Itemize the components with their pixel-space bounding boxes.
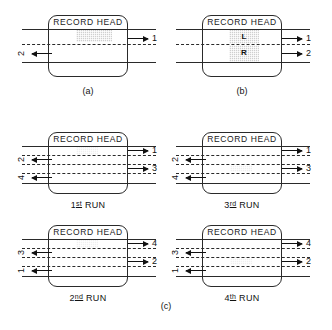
run-4-track-4-arrow bbox=[282, 243, 302, 244]
panel-a-track-divider bbox=[22, 44, 156, 45]
run-1-tape-edge-top bbox=[22, 146, 156, 147]
run-4-suffix: RUN bbox=[239, 293, 259, 303]
run-3-track-2-arrow bbox=[186, 159, 206, 160]
run-2-track-1-arrow bbox=[32, 270, 52, 271]
run-3-caption: 3rd RUN bbox=[202, 200, 282, 210]
run-3-ordinal: rd bbox=[230, 200, 237, 207]
run-1-caption: 1st RUN bbox=[48, 200, 128, 210]
panel-b-track-divider bbox=[176, 44, 310, 45]
run-4-track-4-label: 4 bbox=[306, 239, 311, 248]
run-3-suffix: RUN bbox=[239, 200, 259, 210]
run-3-track-2-label: 2 bbox=[171, 157, 180, 162]
run-2-ordinal: nd bbox=[75, 293, 83, 300]
run-1-track-1-arrow bbox=[128, 150, 148, 151]
run-1-track-4-arrow bbox=[32, 177, 52, 178]
panel-b-caption: (b) bbox=[202, 86, 282, 96]
run-4-record-head-label: RECORD HEAD bbox=[202, 227, 282, 237]
run-3-tape-edge-top bbox=[176, 146, 310, 147]
run-3-divider-3 bbox=[176, 173, 310, 174]
run-2-track-4-label: 4 bbox=[152, 239, 157, 248]
panel-b-tape-edge-bottom bbox=[176, 62, 310, 63]
run-4-track-3-label: 3 bbox=[171, 250, 180, 255]
run-2-track-3-arrow bbox=[32, 252, 52, 253]
panel-b-track-1-arrow bbox=[282, 38, 302, 39]
run-3-record-head-label: RECORD HEAD bbox=[202, 134, 282, 144]
panel-a-record-head-label: RECORD HEAD bbox=[48, 17, 128, 27]
run-1-divider-1 bbox=[22, 155, 156, 156]
panel-b-channel-right-label: R bbox=[229, 49, 259, 57]
panel-a-track-1-label: 1 bbox=[152, 34, 157, 43]
run-2-track-3-label: 3 bbox=[17, 250, 26, 255]
panel-b-channel-left-label: L bbox=[229, 33, 259, 41]
run-1-ordinal: st bbox=[76, 200, 82, 207]
run-1-track-3-arrow bbox=[128, 168, 148, 169]
run-3-track-3-label: 3 bbox=[306, 164, 311, 173]
run-2-track-1-label: 1 bbox=[17, 268, 26, 273]
panel-b-track-2-label: 2 bbox=[306, 49, 311, 58]
run-4-track-3-arrow bbox=[186, 252, 206, 253]
panel-b-track-2-arrow bbox=[282, 53, 302, 54]
panel-b-tape-edge-top bbox=[176, 29, 310, 30]
panel-a-track-2-label: 2 bbox=[17, 51, 26, 56]
run-1-divider-2 bbox=[22, 164, 156, 165]
run-3-track-1-arrow bbox=[282, 150, 302, 151]
run-2-tape-edge-top bbox=[22, 239, 156, 240]
run-4-track-1-arrow bbox=[186, 270, 206, 271]
run-3-divider-2 bbox=[176, 164, 310, 165]
run-4-tape-edge-top bbox=[176, 239, 310, 240]
panel-c-caption: (c) bbox=[136, 301, 196, 311]
run-4-divider-2 bbox=[176, 257, 310, 258]
run-3-track-1-label: 1 bbox=[306, 146, 311, 155]
run-1-track-2-label: 2 bbox=[17, 157, 26, 162]
run-3-track-4-arrow bbox=[186, 177, 206, 178]
run-1-suffix: RUN bbox=[85, 200, 105, 210]
panel-a-track-2-arrow bbox=[32, 53, 52, 54]
run-3-divider-1 bbox=[176, 155, 310, 156]
run-2-track-2-arrow bbox=[128, 261, 148, 262]
run-4-tape-edge-bottom bbox=[176, 276, 310, 277]
panel-a-tape-edge-top bbox=[22, 29, 156, 30]
run-3-track-3-arrow bbox=[282, 168, 302, 169]
run-2-record-head-label: RECORD HEAD bbox=[48, 227, 128, 237]
run-1-record-head-label: RECORD HEAD bbox=[48, 134, 128, 144]
run-1-track-2-arrow bbox=[32, 159, 52, 160]
run-1-track-1-label: 1 bbox=[152, 146, 157, 155]
run-4-caption: 4th RUN bbox=[202, 293, 282, 303]
run-2-divider-3 bbox=[22, 266, 156, 267]
panel-a-track-1-arrow bbox=[128, 38, 148, 39]
run-4-track-1-label: 1 bbox=[171, 268, 180, 273]
run-1-divider-3 bbox=[22, 173, 156, 174]
run-3-track-4-label: 4 bbox=[171, 175, 180, 180]
run-1-track-4-label: 4 bbox=[17, 175, 26, 180]
run-4-divider-1 bbox=[176, 248, 310, 249]
run-2-caption: 2nd RUN bbox=[48, 293, 128, 303]
run-2-suffix: RUN bbox=[86, 293, 106, 303]
run-1-track-3-label: 3 bbox=[152, 164, 157, 173]
run-2-tape-edge-bottom bbox=[22, 276, 156, 277]
run-2-divider-2 bbox=[22, 257, 156, 258]
run-4-divider-3 bbox=[176, 266, 310, 267]
panel-b-record-head-label: RECORD HEAD bbox=[202, 17, 282, 27]
panel-a-caption: (a) bbox=[48, 86, 128, 96]
run-2-track-2-label: 2 bbox=[152, 257, 157, 266]
panel-b-track-1-label: 1 bbox=[306, 34, 311, 43]
run-3-tape-edge-bottom bbox=[176, 183, 310, 184]
run-4-track-2-label: 2 bbox=[306, 257, 311, 266]
run-1-tape-edge-bottom bbox=[22, 183, 156, 184]
panel-a-tape-edge-bottom bbox=[22, 62, 156, 63]
run-2-track-4-arrow bbox=[128, 243, 148, 244]
run-4-ordinal: th bbox=[230, 293, 236, 300]
run-4-track-2-arrow bbox=[282, 261, 302, 262]
run-2-divider-1 bbox=[22, 248, 156, 249]
